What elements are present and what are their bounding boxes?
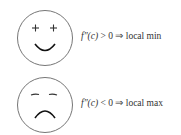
local-max-condition: f″(c) < 0 ⇒ local max	[81, 99, 163, 109]
dash-eyes-icon	[31, 94, 57, 95]
condition-result: < 0 ⇒ local max	[101, 98, 163, 108]
frowny-face-icon	[15, 76, 75, 135]
condition-fn: f″(c)	[81, 31, 98, 41]
smile-mouth-icon	[35, 44, 55, 51]
frown-mouth-icon	[35, 111, 55, 118]
local-min-condition: f″(c) > 0 ⇒ local min	[81, 32, 161, 42]
plus-eyes-icon	[32, 25, 57, 32]
smiley-face-icon	[15, 8, 75, 68]
condition-result: > 0 ⇒ local min	[101, 31, 162, 41]
condition-fn: f″(c)	[81, 98, 98, 108]
